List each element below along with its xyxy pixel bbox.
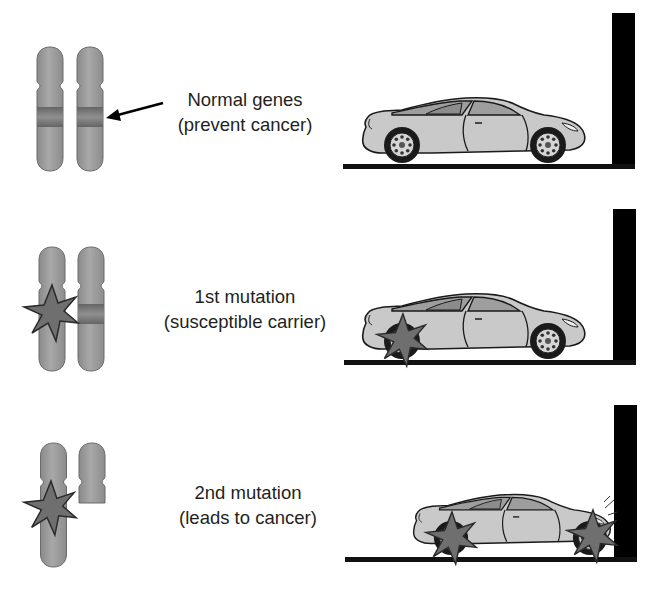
ground xyxy=(344,360,636,365)
label-normal-genes: Normal genes (prevent cancer) xyxy=(165,87,325,137)
chromosome-pair-normal xyxy=(37,47,103,171)
ground xyxy=(343,164,635,169)
front-wheel xyxy=(530,127,566,163)
ground xyxy=(345,557,637,562)
car-scene-crashed xyxy=(345,405,637,564)
label-line2: (leads to cancer) xyxy=(163,505,333,530)
rear-wheel xyxy=(384,127,420,163)
chromosome-pair-both-mutated xyxy=(24,443,105,567)
wall xyxy=(612,13,635,168)
arrow-icon xyxy=(106,103,163,121)
gene-band xyxy=(37,107,63,127)
label-line2: (susceptible carrier) xyxy=(150,309,340,334)
label-line1: Normal genes xyxy=(165,87,325,112)
front-wheel xyxy=(530,323,566,359)
chromosome-right xyxy=(78,247,104,371)
wall xyxy=(614,405,637,561)
label-first-mutation: 1st mutation (susceptible carrier) xyxy=(150,284,340,334)
label-line2: (prevent cancer) xyxy=(165,112,325,137)
gene-band xyxy=(78,304,104,324)
label-line1: 1st mutation xyxy=(150,284,340,309)
gene-band xyxy=(77,107,103,127)
label-line1: 2nd mutation xyxy=(163,480,333,505)
chromosome-left xyxy=(37,47,63,171)
car-scene-intact xyxy=(343,13,635,169)
wall xyxy=(613,209,636,364)
chromosome-right xyxy=(77,47,103,171)
car-scene-damaged xyxy=(344,209,636,366)
label-second-mutation: 2nd mutation (leads to cancer) xyxy=(163,480,333,530)
chromosome-pair-one-mutated xyxy=(24,247,104,371)
row-normal xyxy=(37,13,635,171)
chromosome-right-deleted xyxy=(79,443,105,503)
